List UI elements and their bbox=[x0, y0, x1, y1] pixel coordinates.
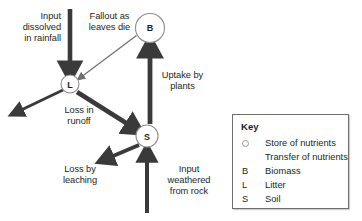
node-biomass-letter: B bbox=[140, 23, 160, 33]
legend-box: Key Store of nutrients Transfer of nutri… bbox=[232, 114, 349, 209]
label-fallout-leaves: Fallout as leaves die bbox=[82, 11, 137, 33]
arrow-right-icon bbox=[241, 151, 261, 164]
label-loss-leaching: Loss by leaching bbox=[52, 164, 108, 186]
label-loss-runoff: Loss in runoff bbox=[56, 105, 102, 127]
legend-label-litter: Litter bbox=[265, 180, 286, 190]
node-litter-letter: L bbox=[60, 80, 80, 90]
legend-row-litter: L Litter bbox=[241, 179, 345, 192]
legend-key-letter-b: B bbox=[242, 166, 248, 176]
label-input-weathered: Input weathered from rock bbox=[158, 164, 220, 198]
label-uptake-plants: Uptake by plants bbox=[155, 70, 210, 92]
legend-row-soil: S Soil bbox=[241, 193, 345, 206]
legend-key-s: S bbox=[241, 193, 261, 206]
legend-row-transfer: Transfer of nutrients bbox=[241, 151, 345, 164]
diagram-canvas: B L S Input dissolved in rainfall Fallou… bbox=[0, 0, 362, 221]
circle-outline-icon bbox=[241, 137, 261, 150]
legend-label-soil: Soil bbox=[265, 194, 281, 204]
legend-key-b: B bbox=[241, 165, 261, 178]
legend-row-biomass: B Biomass bbox=[241, 165, 345, 178]
arrow-fallout-leaves bbox=[81, 36, 137, 78]
legend-label-store: Store of nutrients bbox=[265, 138, 336, 148]
legend-key-letter-l: L bbox=[242, 180, 247, 190]
label-input-rainfall: Input dissolved in rainfall bbox=[2, 11, 61, 45]
arrow-loss-leaching bbox=[106, 145, 139, 159]
legend-key-letter-s: S bbox=[242, 194, 248, 204]
legend-title: Key bbox=[241, 121, 259, 132]
legend-label-biomass: Biomass bbox=[265, 166, 301, 176]
legend-label-transfer: Transfer of nutrients bbox=[265, 152, 348, 162]
legend-key-l: L bbox=[241, 179, 261, 192]
legend-row-store: Store of nutrients bbox=[241, 137, 345, 150]
node-soil-letter: S bbox=[137, 132, 157, 142]
